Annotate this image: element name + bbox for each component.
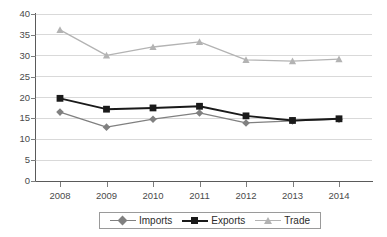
x-tick-label: 2013 xyxy=(270,190,316,201)
y-tick-label: 15 xyxy=(0,113,30,123)
x-tick-label: 2012 xyxy=(223,190,269,201)
y-tick-label: 0 xyxy=(0,176,30,186)
x-axis-line xyxy=(35,181,373,182)
chart-legend: ImportsExportsTrade xyxy=(99,212,321,229)
y-tick-mark xyxy=(31,118,36,119)
x-tick-label: 2011 xyxy=(177,190,223,201)
legend-swatch xyxy=(255,215,281,226)
legend-item-imports[interactable]: Imports xyxy=(110,215,172,226)
legend-label: Trade xyxy=(284,215,310,226)
y-tick-label: 40 xyxy=(0,9,30,19)
square-marker-icon xyxy=(289,117,296,124)
y-tick-label: 10 xyxy=(0,134,30,144)
legend-swatch xyxy=(182,215,208,226)
diamond-marker-icon xyxy=(56,108,64,116)
y-tick-mark xyxy=(31,181,36,182)
square-marker-icon xyxy=(196,103,203,110)
y-tick-mark xyxy=(31,98,36,99)
y-axis: 4035302520151050 xyxy=(0,0,30,195)
x-tick-mark xyxy=(60,182,61,187)
plot-area xyxy=(36,14,372,181)
square-marker-icon xyxy=(243,112,250,119)
triangle-marker-icon xyxy=(264,217,272,224)
x-tick-label: 2014 xyxy=(316,190,362,201)
triangle-marker-icon xyxy=(56,26,63,33)
series-exports xyxy=(57,95,343,124)
legend-swatch xyxy=(110,215,136,226)
square-marker-icon xyxy=(57,95,64,102)
x-tick-mark xyxy=(107,182,108,187)
y-tick-mark xyxy=(31,56,36,57)
y-tick-mark xyxy=(31,160,36,161)
line-chart: 4035302520151050 ImportsExportsTrade 200… xyxy=(0,0,387,237)
y-tick-label: 30 xyxy=(0,51,30,61)
diamond-marker-icon xyxy=(149,115,157,123)
legend-label: Exports xyxy=(211,215,245,226)
y-tick-mark xyxy=(31,77,36,78)
legend-item-trade[interactable]: Trade xyxy=(255,215,310,226)
square-marker-icon xyxy=(150,105,157,112)
y-tick-label: 35 xyxy=(0,30,30,40)
legend-item-exports[interactable]: Exports xyxy=(182,215,245,226)
x-tick-mark xyxy=(153,182,154,187)
plot-svg xyxy=(36,14,372,181)
diamond-marker-icon xyxy=(118,216,128,226)
square-marker-icon xyxy=(103,106,110,113)
series-trade xyxy=(56,26,342,64)
square-marker-icon xyxy=(336,115,343,122)
y-tick-label: 25 xyxy=(0,72,30,82)
x-tick-mark xyxy=(339,182,340,187)
y-tick-mark xyxy=(31,139,36,140)
diamond-marker-icon xyxy=(196,109,204,117)
diamond-marker-icon xyxy=(242,119,250,127)
diamond-marker-icon xyxy=(103,123,111,131)
y-tick-mark xyxy=(31,35,36,36)
x-tick-mark xyxy=(200,182,201,187)
x-tick-label: 2009 xyxy=(84,190,130,201)
y-tick-label: 5 xyxy=(0,155,30,165)
x-tick-label: 2010 xyxy=(130,190,176,201)
square-marker-icon xyxy=(191,217,198,224)
y-tick-label: 20 xyxy=(0,93,30,103)
x-tick-mark xyxy=(246,182,247,187)
x-tick-mark xyxy=(293,182,294,187)
x-tick-label: 2008 xyxy=(37,190,83,201)
y-tick-mark xyxy=(31,14,36,15)
legend-label: Imports xyxy=(139,215,172,226)
